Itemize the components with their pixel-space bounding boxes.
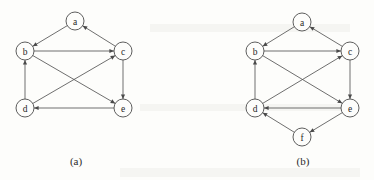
node-label-d: d	[23, 104, 28, 114]
node-c[interactable]: c	[114, 42, 132, 60]
arrowhead-icon-e-to-d	[264, 106, 269, 110]
arrowhead-icon-e-to-d	[34, 106, 39, 110]
node-a[interactable]: a	[66, 12, 84, 30]
graph-figure-canvas: abcde(a)abcdef(b)	[0, 0, 374, 180]
node-a[interactable]: a	[293, 13, 311, 31]
edge-c-to-a	[83, 26, 116, 46]
panel-a: abcde(a)	[16, 12, 132, 168]
node-f[interactable]: f	[293, 128, 311, 146]
node-d[interactable]: d	[246, 99, 264, 117]
node-b[interactable]: b	[16, 42, 34, 60]
panel-caption-b: (b)	[297, 155, 310, 168]
arrowhead-icon-f-to-d	[263, 113, 268, 117]
node-e[interactable]: e	[114, 99, 132, 117]
node-label-e: e	[348, 104, 352, 114]
node-d[interactable]: d	[16, 99, 34, 117]
panel-caption-a: (a)	[70, 155, 83, 168]
edge-a-to-b	[263, 27, 295, 47]
arrowhead-icon-c-to-e	[121, 94, 125, 99]
edge-a-to-b	[33, 26, 68, 47]
figure-root: abcde(a)abcdef(b)	[0, 0, 374, 180]
arrowhead-icon-d-to-b	[253, 60, 257, 65]
panel-b: abcdef(b)	[246, 13, 359, 168]
node-label-c: c	[121, 47, 125, 57]
node-label-d: d	[253, 104, 258, 114]
arrowhead-icon-a-to-b	[263, 42, 268, 46]
arrowhead-icon-c-to-e	[348, 94, 352, 99]
arrowhead-icon-d-to-b	[23, 60, 27, 65]
edge-f-to-d	[263, 113, 295, 133]
node-e[interactable]: e	[341, 99, 359, 117]
node-b[interactable]: b	[246, 42, 264, 60]
node-label-b: b	[23, 47, 28, 57]
edge-c-to-a	[310, 27, 343, 47]
arrowhead-icon-b-to-c	[336, 49, 341, 53]
node-c[interactable]: c	[341, 42, 359, 60]
edge-e-to-f	[310, 113, 343, 133]
arrowhead-icon-b-to-c	[109, 49, 114, 53]
node-label-b: b	[253, 47, 258, 57]
arrowhead-icon-c-to-a	[83, 26, 88, 30]
node-label-c: c	[348, 47, 352, 57]
node-label-e: e	[121, 104, 125, 114]
